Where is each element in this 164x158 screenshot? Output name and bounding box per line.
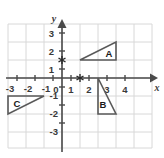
y-axis-label: y — [51, 13, 57, 24]
y-tick-label--3: -3 — [50, 126, 58, 137]
x-tick-label-1: 1 — [68, 84, 74, 95]
y-tick-label-3: 3 — [49, 28, 54, 39]
y-tick-label-2: 2 — [49, 46, 54, 57]
y-tick-label-1: 1 — [49, 64, 55, 75]
triangle-a-label: A — [106, 48, 113, 59]
triangle-b-label: B — [100, 99, 107, 110]
x-tick-label--3: -3 — [6, 83, 14, 94]
x-tick-label-2: 2 — [86, 84, 91, 95]
triangle-c-label: C — [14, 98, 21, 109]
y-tick-label--2: -2 — [50, 108, 58, 119]
coordinate-plane-svg: -3 -2 -1 0 1 2 3 4 3 2 1 -1 -2 -3 y x A … — [0, 0, 164, 158]
x-tick-label-4: 4 — [122, 84, 128, 95]
coordinate-plane-figure: -3 -2 -1 0 1 2 3 4 3 2 1 -1 -2 -3 y x A … — [0, 0, 164, 158]
x-tick-label--2: -2 — [24, 83, 32, 94]
y-tick-label--1: -1 — [50, 90, 59, 101]
x-axis-label: x — [154, 82, 160, 93]
